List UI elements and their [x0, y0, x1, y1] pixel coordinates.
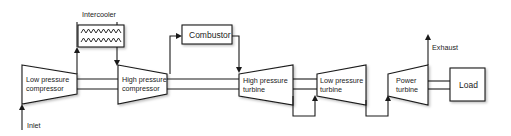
gas-turbine-diagram: Inlet Intercooler Low pressure compresso… [0, 0, 511, 136]
flow-combustor-to-hpt [232, 36, 239, 70]
hp-turbine-label-1: High pressure [243, 76, 288, 85]
flow-lpt-to-power-turbine [366, 98, 388, 116]
hp-compressor: High pressure compressor [118, 65, 167, 104]
hp-turbine: High pressure turbine [239, 65, 293, 105]
lp-turbine: Low pressure turbine [317, 65, 366, 105]
inlet-label: Inlet [27, 121, 41, 130]
flow-hpc-to-combustor [170, 36, 179, 74]
power-turbine-label-2: turbine [396, 85, 418, 94]
intercooler-label: Intercooler [82, 10, 117, 19]
lp-turbine-label-2: turbine [320, 85, 342, 94]
lp-compressor-label-2: compressor [26, 84, 64, 93]
intercooler [78, 25, 124, 47]
lp-compressor: Low pressure compressor [22, 65, 77, 104]
shaft-load [428, 81, 450, 89]
power-turbine: Power turbine [388, 65, 428, 105]
hp-compressor-label-2: compressor [122, 84, 160, 93]
hp-compressor-label-1: High pressure [122, 75, 167, 84]
shaft-hp [167, 79, 239, 89]
load: Load [450, 68, 485, 101]
shaft-turbines [293, 79, 317, 89]
load-label: Load [459, 80, 478, 90]
shaft-lp [77, 79, 118, 89]
lp-turbine-label-1: Low pressure [320, 76, 363, 85]
exhaust-label: Exhaust [432, 43, 458, 52]
combustor: Combustor [182, 25, 232, 44]
lp-compressor-label-1: Low pressure [26, 75, 69, 84]
power-turbine-label-1: Power [396, 76, 417, 85]
combustor-label: Combustor [189, 30, 231, 40]
flow-hpt-to-lpt [293, 96, 315, 116]
hp-turbine-label-2: turbine [243, 85, 265, 94]
